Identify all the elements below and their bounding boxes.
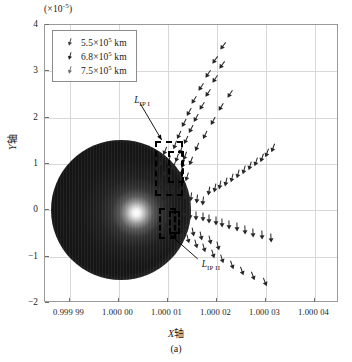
legend-label: 5.5×105 km [81,36,127,48]
y-axis-tick-label: 3 [18,65,38,75]
y-axis-tick [45,70,49,71]
y-axis-tick-label: −2 [18,297,38,307]
y-axis-tick-label: −1 [18,251,38,261]
x-axis-label-text: 轴 [174,328,184,339]
y-axis-tick-label: 2 [18,112,38,122]
legend: 5.5×105 km6.8×105 km7.5×105 km [52,30,137,82]
x-axis-tick-label: 1.000 01 [151,307,182,317]
x-axis-tick [167,298,168,302]
y-axis-tick [45,24,49,25]
y-axis-tick-label: 1 [18,158,38,168]
y-axis-label-text: 轴 [7,134,18,144]
legend-label: 7.5×105 km [81,64,127,76]
x-axis-tick-label: 1.000 03 [249,307,280,317]
x-axis-tick [265,298,266,302]
legend-label-unit: km [112,66,127,76]
x-axis-tick-label: 1.000 02 [200,307,231,317]
x-axis-tick [69,298,70,302]
legend-label-base: 7.5×10 [81,66,108,76]
x-axis-tick-label: 0.999 99 [53,307,84,317]
x-axis-tick-label: 1.000 04 [298,307,329,317]
legend-label: 6.8×105 km [81,50,127,62]
legend-label-unit: km [112,38,127,48]
legend-label-unit: km [112,52,127,62]
x-axis-tick [314,298,315,302]
x-axis-tick [216,298,217,302]
y-axis-tick [45,163,49,164]
legend-label-base: 6.8×10 [81,52,108,62]
y-axis-tick [45,209,49,210]
y-axis-tick-label: 4 [18,19,38,29]
y-axis-tick [45,256,49,257]
x-axis-label: X轴 [0,325,352,340]
legend-item-3[interactable]: 7.5×105 km [59,63,127,77]
y-axis-tick [45,117,49,118]
y-axis-label: Y轴 [4,134,19,150]
legend-label-base: 5.5×10 [81,38,108,48]
y-axis-tick [45,302,49,303]
y-axis-multiplier: (×10-5) [44,2,72,14]
x-axis-tick-label: 1.000 00 [102,307,133,317]
x-axis-tick [118,298,119,302]
figure-caption: (a) [0,343,352,354]
figure-container: (×10-5) LIP ILIP II 0.999 991.000 001.00… [0,0,352,362]
y-axis-tick-label: 0 [18,204,38,214]
